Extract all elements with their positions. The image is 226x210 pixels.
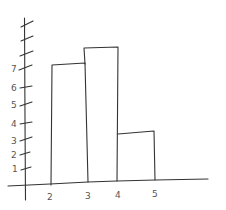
x-axis [8, 179, 208, 186]
histogram-chart: 7 6 5 4 3 2 1 2 3 4 5 [0, 0, 226, 210]
bar-4-5 [118, 131, 155, 180]
y-label-7: 7 [11, 64, 17, 74]
x-label-5: 5 [152, 189, 158, 199]
bars [51, 47, 155, 185]
y-label-1: 1 [12, 164, 18, 174]
x-label-4: 4 [115, 190, 121, 200]
bar-2-3 [51, 63, 88, 185]
y-tick-4 [20, 122, 32, 124]
y-tick-9 [21, 36, 33, 41]
y-tick-8 [20, 51, 33, 56]
y-tick-10 [21, 21, 33, 27]
y-tick-5 [20, 102, 32, 106]
x-label-3: 3 [85, 191, 91, 201]
y-tick-labels: 7 6 5 4 3 2 1 [11, 64, 18, 174]
y-tick-6 [20, 86, 32, 88]
bar-3-4 [84, 47, 118, 181]
y-label-3: 3 [11, 136, 17, 146]
y-label-5: 5 [11, 100, 17, 110]
y-ticks [19, 21, 33, 170]
x-label-2: 2 [47, 192, 53, 202]
y-label-4: 4 [11, 119, 17, 129]
y-label-6: 6 [11, 83, 17, 93]
y-tick-3 [20, 137, 32, 141]
x-tick-labels: 2 3 4 5 [47, 189, 158, 202]
y-tick-7 [19, 65, 32, 70]
y-tick-1 [21, 167, 31, 170]
y-label-2: 2 [11, 150, 17, 160]
y-axis [25, 18, 26, 200]
